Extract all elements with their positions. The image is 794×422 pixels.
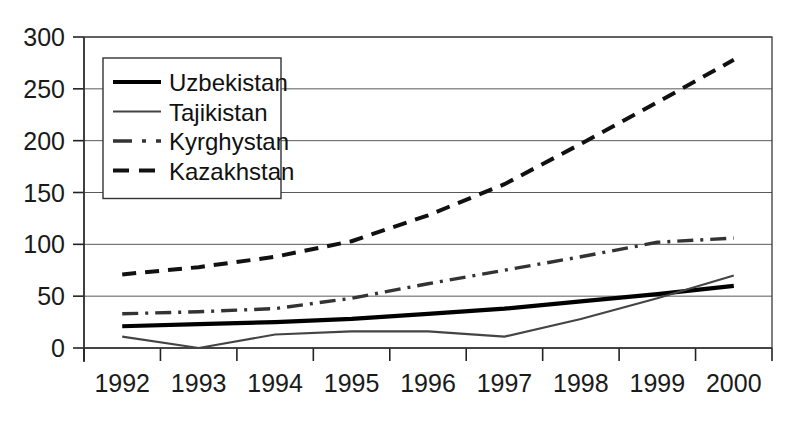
- legend-label-uzbekistan: Uzbekistan: [169, 69, 288, 96]
- x-axis-labels-group: 199219931994199519961997199819992000: [94, 369, 761, 397]
- x-tick-label-1998: 1998: [553, 369, 609, 397]
- x-tick-label-1996: 1996: [400, 369, 456, 397]
- chart-legend: UzbekistanTajikistanKyrghystanKazakhstan: [103, 58, 294, 199]
- line-chart: 050100150200250300 199219931994199519961…: [0, 0, 794, 422]
- legend-label-tajikistan: Tajikistan: [169, 99, 268, 126]
- y-tick-label: 0: [51, 334, 65, 362]
- x-tick-label-1993: 1993: [171, 369, 227, 397]
- x-tick-label-1995: 1995: [324, 369, 380, 397]
- legend-label-kazakhstan: Kazakhstan: [169, 158, 294, 185]
- y-axis-ticks-group: [73, 37, 84, 348]
- y-tick-label: 200: [23, 127, 65, 155]
- series-line-uzbekistan: [122, 286, 734, 326]
- y-tick-label: 50: [37, 282, 65, 310]
- x-tick-label-1997: 1997: [477, 369, 533, 397]
- y-tick-label: 250: [23, 75, 65, 103]
- y-axis-labels-group: 050100150200250300: [23, 23, 65, 362]
- x-tick-label-1999: 1999: [630, 369, 686, 397]
- x-tick-label-1992: 1992: [94, 369, 150, 397]
- chart-canvas: 050100150200250300 199219931994199519961…: [0, 0, 794, 422]
- y-tick-label: 300: [23, 23, 65, 51]
- y-tick-label: 150: [23, 179, 65, 207]
- x-tick-label-2000: 2000: [706, 369, 762, 397]
- legend-label-kyrghystan: Kyrghystan: [169, 128, 289, 155]
- y-tick-label: 100: [23, 230, 65, 258]
- x-tick-label-1994: 1994: [247, 369, 303, 397]
- x-axis-ticks-group: [84, 348, 772, 361]
